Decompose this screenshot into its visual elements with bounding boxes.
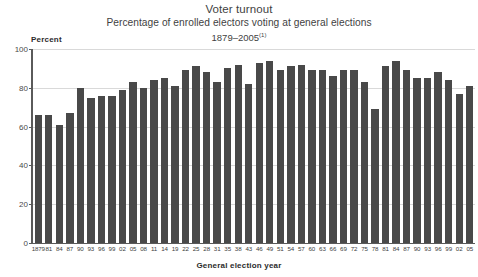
y-tick-mark	[29, 243, 32, 244]
bar	[445, 80, 452, 243]
y-tick-label: 40	[19, 161, 28, 170]
x-tick-label: 69	[340, 245, 347, 252]
bar	[319, 70, 326, 243]
x-tick-label: 93	[88, 245, 95, 252]
y-tick-label: 80	[19, 83, 28, 92]
x-tick-label: 60	[309, 245, 316, 252]
x-tick-label: 78	[372, 245, 379, 252]
x-tick-label: 14	[161, 245, 168, 252]
x-tick-label: 28	[203, 245, 210, 252]
bar	[424, 78, 431, 243]
bar	[224, 68, 231, 243]
x-tick-label: 49	[266, 245, 273, 252]
bar	[277, 70, 284, 243]
bar	[466, 86, 473, 243]
y-tick-mark	[29, 204, 32, 205]
chart-header: Voter turnout Percentage of enrolled ele…	[0, 2, 478, 44]
bar	[98, 96, 105, 243]
x-tick-label: 90	[77, 245, 84, 252]
bar	[256, 63, 263, 243]
bar	[213, 82, 220, 243]
x-tick-label: 81	[382, 245, 389, 252]
bar	[150, 80, 157, 243]
bar	[45, 115, 52, 243]
bar	[266, 61, 273, 243]
x-tick-label: 31	[214, 245, 221, 252]
x-tick-label: 96	[98, 245, 105, 252]
plot-area: 020406080100	[33, 49, 475, 243]
bar	[171, 86, 178, 243]
x-tick-label: 63	[319, 245, 326, 252]
x-tick-label: 02	[456, 245, 463, 252]
bar	[161, 78, 168, 243]
x-tick-label: 02	[119, 245, 126, 252]
x-axis-tick-labels: 1879818487909396990205081114192225283135…	[33, 245, 475, 257]
bar	[119, 90, 126, 243]
bar	[108, 96, 115, 243]
bar	[87, 98, 94, 244]
bar	[456, 94, 463, 243]
x-tick-label: 43	[245, 245, 252, 252]
bar	[129, 82, 136, 243]
x-tick-label: 99	[109, 245, 116, 252]
x-tick-label: 99	[445, 245, 452, 252]
x-tick-label: 22	[182, 245, 189, 252]
x-tick-label: 38	[235, 245, 242, 252]
bar	[192, 66, 199, 243]
y-tick-mark	[29, 127, 32, 128]
y-tick-label: 0	[24, 239, 28, 248]
footnote-marker: (1)	[259, 32, 266, 38]
x-tick-label: 57	[298, 245, 305, 252]
bar	[403, 70, 410, 243]
chart-period-range: 1879–2005	[212, 32, 260, 43]
chart-title: Voter turnout	[0, 2, 478, 16]
x-tick-label: 11	[151, 245, 157, 252]
bar	[203, 72, 210, 243]
y-tick-label: 60	[19, 122, 28, 131]
bar-series	[33, 49, 475, 243]
x-tick-label: 72	[351, 245, 358, 252]
x-tick-label: 96	[435, 245, 442, 252]
x-tick-label: 1879	[32, 245, 45, 252]
y-tick-label: 100	[15, 45, 28, 54]
x-tick-label: 05	[466, 245, 473, 252]
chart-period: 1879–2005(1)	[0, 29, 478, 44]
bar	[298, 65, 305, 243]
bar	[434, 72, 441, 243]
x-tick-label: 35	[224, 245, 231, 252]
bar	[140, 88, 147, 243]
x-tick-label: 81	[45, 245, 52, 252]
x-tick-label: 84	[56, 245, 63, 252]
bar	[350, 70, 357, 243]
bar	[287, 66, 294, 243]
bar	[182, 70, 189, 243]
x-tick-label: 66	[330, 245, 337, 252]
y-tick-mark	[29, 88, 32, 89]
x-tick-label: 19	[172, 245, 179, 252]
x-tick-label: 87	[66, 245, 73, 252]
x-tick-label: 25	[193, 245, 200, 252]
x-tick-label: 93	[424, 245, 431, 252]
x-axis-title: General election year	[0, 261, 478, 270]
bar	[371, 109, 378, 243]
bar	[35, 115, 42, 243]
chart-root: Voter turnout Percentage of enrolled ele…	[0, 0, 478, 277]
bar	[308, 70, 315, 243]
x-tick-label: 90	[414, 245, 421, 252]
bar	[66, 113, 73, 243]
bar	[382, 66, 389, 243]
x-tick-label: 87	[403, 245, 410, 252]
x-tick-label: 05	[130, 245, 137, 252]
bar	[329, 76, 336, 243]
bar	[235, 65, 242, 243]
bar	[392, 61, 399, 243]
bar	[340, 70, 347, 243]
y-tick-mark	[29, 165, 32, 166]
bar	[361, 82, 368, 243]
x-tick-label: 46	[256, 245, 263, 252]
y-tick-label: 20	[19, 200, 28, 209]
chart-subtitle: Percentage of enrolled electors voting a…	[0, 16, 478, 29]
x-tick-label: 54	[287, 245, 294, 252]
x-tick-label: 84	[393, 245, 400, 252]
x-tick-label: 51	[277, 245, 284, 252]
